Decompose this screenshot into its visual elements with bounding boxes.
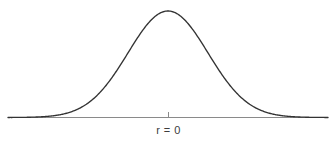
bell-curve-path bbox=[8, 11, 328, 117]
normal-distribution-figure: r = 0 bbox=[0, 0, 335, 149]
center-axis-label: r = 0 bbox=[0, 124, 335, 136]
center-axis-label-text: r = 0 bbox=[156, 124, 180, 136]
